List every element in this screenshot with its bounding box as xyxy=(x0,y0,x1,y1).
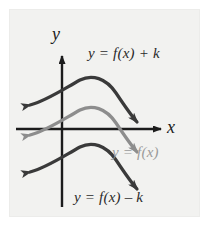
curve-label-f: y = f(x) xyxy=(112,145,159,160)
curve-label-f-minus-k: y = f(x) – k xyxy=(74,190,143,205)
math-figure-graph-vertical-shift: y x y = f(x) + k y = f(x) y = f(x) – k xyxy=(0,0,204,229)
curve-label-f-plus-k: y = f(x) + k xyxy=(88,46,160,61)
y-axis-label: y xyxy=(52,25,60,43)
x-axis-label: x xyxy=(167,118,175,136)
curve-top-path xyxy=(30,77,137,122)
curve-top-group xyxy=(30,77,137,122)
